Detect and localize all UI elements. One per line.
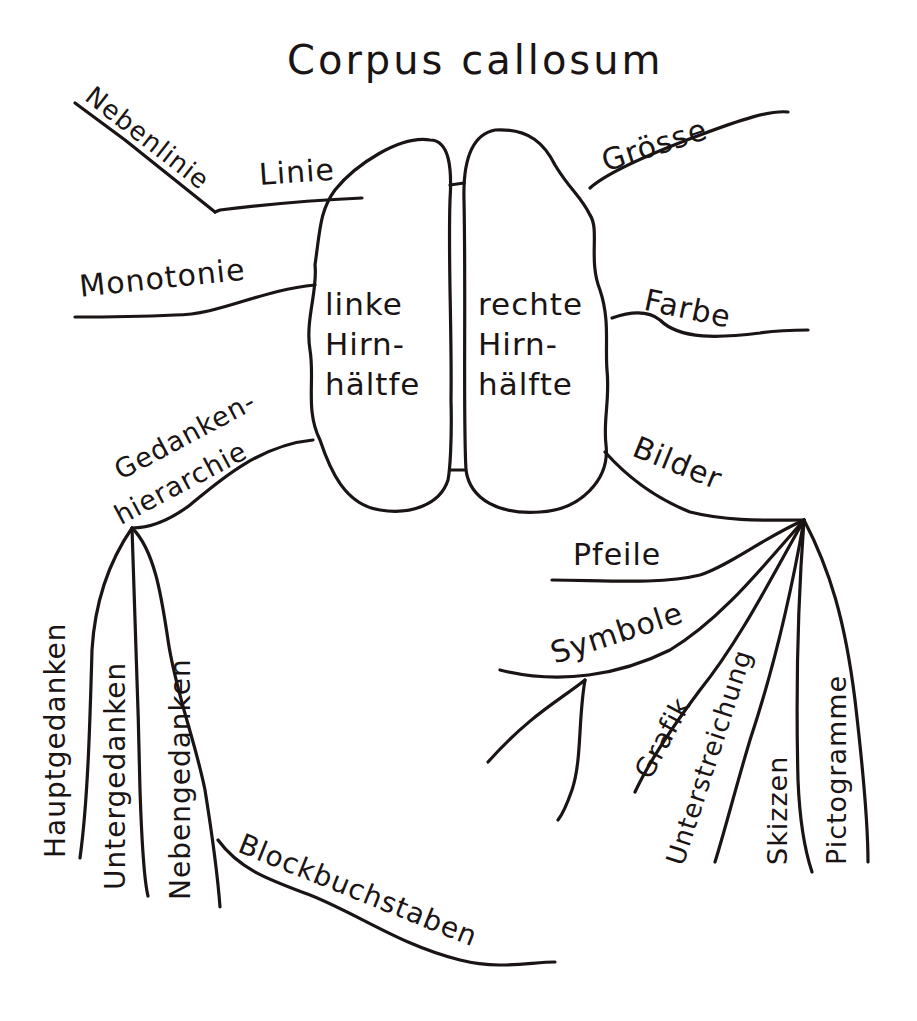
label-untergedanken: Untergedanken — [102, 662, 130, 890]
left-hemisphere-label: linke Hirn- hältfe — [325, 284, 420, 404]
mind-map-canvas: Corpus callosum linke Hirn- hältfe recht… — [0, 0, 917, 1021]
label-nebengedanken: Nebengedanken — [167, 658, 195, 900]
title-corpus-callosum: Corpus callosum — [287, 40, 664, 80]
corpus-callosum-top — [450, 183, 464, 185]
label-pictogramme: Pictogramme — [823, 675, 850, 865]
branch-linie — [215, 198, 362, 212]
branch-untergedanken — [132, 528, 148, 896]
branch-skizzen — [797, 520, 812, 872]
branch-symbole-sub1 — [488, 680, 585, 762]
branch-symbole-sub2 — [558, 680, 585, 820]
label-skizzen: Skizzen — [764, 756, 791, 865]
right-hemisphere-label: rechte Hirn- hälfte — [478, 284, 583, 404]
label-linie: Linie — [258, 155, 336, 190]
label-pfeile: Pfeile — [573, 540, 661, 570]
label-hauptgedanken: Hauptgedanken — [42, 622, 70, 858]
